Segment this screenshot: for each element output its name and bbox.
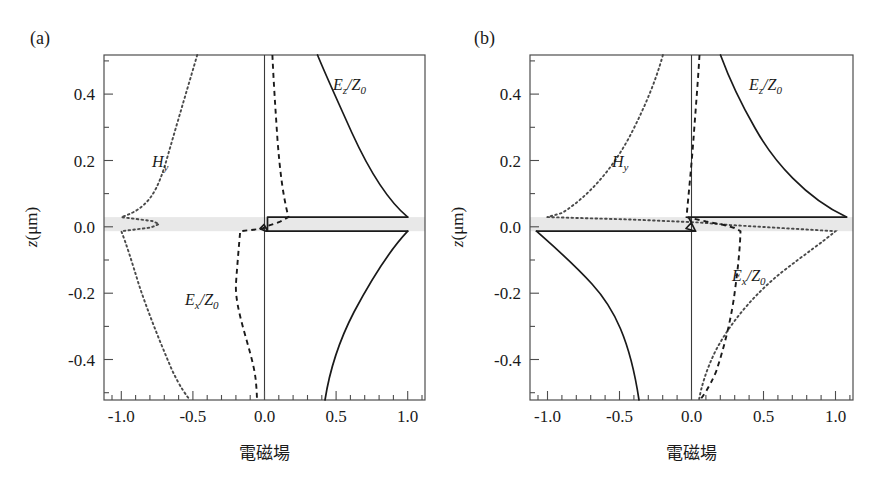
x-axis-ticks — [538, 391, 850, 400]
y-axis-title: z(μm) — [22, 207, 41, 248]
y-tick-label-3: -0.2 — [494, 284, 521, 303]
y-axis-title-unit: (μm) — [448, 207, 467, 241]
y-axis-ticks — [530, 61, 539, 393]
y-tick-label-0: 0.4 — [74, 85, 96, 104]
x-tick-label-0: -1.0 — [534, 407, 561, 426]
curve-ez-lower — [325, 231, 408, 400]
figure-container: (a) — [0, 0, 889, 484]
y-tick-label-3: -0.2 — [68, 284, 95, 303]
x-tick-label-4: 1.0 — [825, 407, 846, 426]
curve-ez-upper — [721, 55, 847, 217]
y-tick-label-1: 0.2 — [500, 152, 521, 171]
panel-a: (a) — [0, 0, 445, 484]
x-axis-title: 電磁場 — [239, 443, 290, 463]
x-tick-label-3: 0.5 — [325, 407, 346, 426]
curve-ez-lower — [537, 231, 640, 400]
x-tick-label-4: 1.0 — [397, 407, 418, 426]
panel-a-plot: (a) — [0, 0, 445, 484]
y-axis-ticks — [104, 61, 113, 393]
curve-label-hy: Hy — [151, 153, 169, 173]
x-axis-title: 電磁場 — [666, 443, 717, 463]
y-tick-label-1: 0.2 — [74, 152, 95, 171]
x-tick-label-0: -1.0 — [108, 407, 135, 426]
panel-b: (b) — [444, 0, 889, 484]
curve-ez-upper — [318, 55, 408, 217]
svg-text:z(μm): z(μm) — [22, 207, 41, 248]
svg-text:z(μm): z(μm) — [448, 207, 467, 248]
curve-label-hy: Hy — [611, 153, 629, 173]
panel-b-plot: (b) — [444, 0, 889, 484]
x-tick-label-2: 0.0 — [681, 407, 702, 426]
x-tick-label-1: -0.5 — [179, 407, 206, 426]
curve-label-ex: Ex/Z0 — [184, 291, 219, 311]
panel-b-tag: (b) — [474, 28, 495, 49]
x-tick-label-2: 0.0 — [254, 407, 275, 426]
curve-label-ez-e: E — [332, 76, 343, 93]
y-axis-title: z(μm) — [448, 207, 467, 248]
y-tick-label-2: 0.0 — [74, 218, 95, 237]
curve-label-ez: Ez/Z0 — [748, 76, 782, 96]
curve-hy-upper — [548, 55, 663, 217]
y-tick-label-0: 0.4 — [500, 85, 522, 104]
x-tick-label-1: -0.5 — [606, 407, 633, 426]
y-tick-label-4: -0.4 — [494, 351, 521, 370]
x-axis-ticks — [112, 391, 422, 400]
y-tick-label-2: 0.0 — [500, 218, 521, 237]
curve-label-ez: Ez/Z0 — [332, 76, 366, 96]
panel-a-tag: (a) — [30, 28, 50, 49]
x-tick-label-3: 0.5 — [753, 407, 774, 426]
y-tick-label-4: -0.4 — [68, 351, 95, 370]
y-axis-title-unit: (μm) — [22, 207, 41, 241]
